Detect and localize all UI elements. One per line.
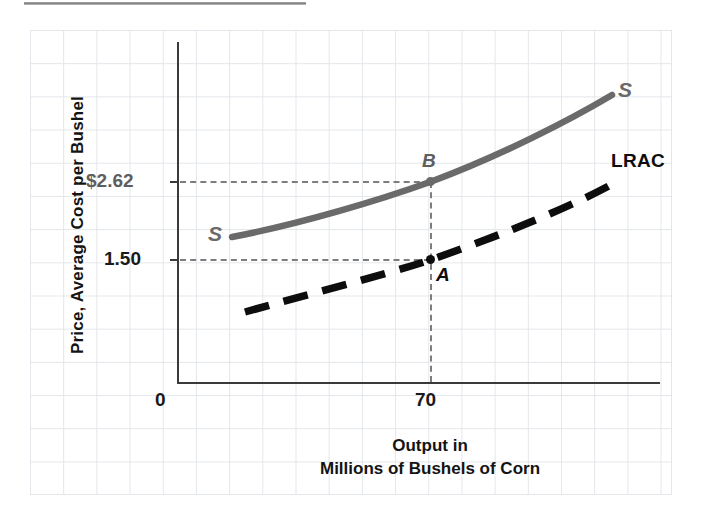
data-point-a [426,255,435,264]
supply-curve-label-left: S [208,222,222,246]
x-axis-title-line1: Output in [230,435,630,458]
point-b-label: B [422,150,436,172]
y-axis-title: Price, Average Cost per Bushel [68,60,88,390]
point-a-label: A [436,264,450,286]
y-axis-label-262: $2.62 [86,170,134,192]
lrac-curve-label: LRAC [611,150,665,172]
economics-supply-lrac-chart: $2.62 1.50 0 70 S S LRAC B A Price, Aver… [0,0,701,529]
plot-area: $2.62 1.50 0 70 S S LRAC B A Price, Aver… [0,0,701,529]
origin-label: 0 [155,389,166,411]
x-axis-label-70: 70 [415,389,436,411]
x-axis-title: Output in Millions of Bushels of Corn [230,435,630,481]
data-point-b [426,177,435,186]
y-axis-label-150: 1.50 [104,248,141,270]
x-axis-title-line2: Millions of Bushels of Corn [230,458,630,481]
supply-curve-label-right: S [618,78,632,102]
lrac-curve [245,182,616,312]
